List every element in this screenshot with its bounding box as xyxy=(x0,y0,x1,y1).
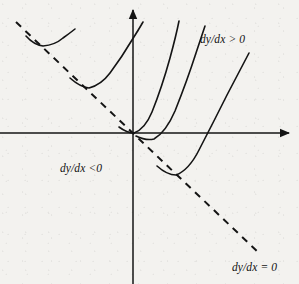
solution-curve-3 xyxy=(119,21,179,133)
axes-group xyxy=(0,10,289,284)
label-dydx-zero: dy/dx = 0 xyxy=(232,261,277,273)
solution-curve-2 xyxy=(70,22,143,88)
solution-curve-5 xyxy=(157,53,249,175)
label-dydx-negative: dy/dx <0 xyxy=(60,162,102,174)
label-dydx-positive: dy/dx > 0 xyxy=(200,33,245,45)
slope-field-figure: dy/dx > 0 dy/dx <0 dy/dx = 0 xyxy=(0,0,299,284)
solution-curve-1 xyxy=(26,29,75,46)
figure-canvas xyxy=(0,0,299,284)
